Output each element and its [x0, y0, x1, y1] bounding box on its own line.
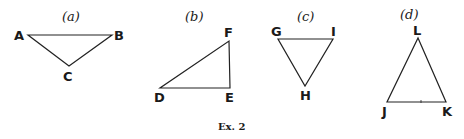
- triangle-diagram: (a) A B C (b) D E F (c) G I H (d) J K L …: [0, 0, 464, 139]
- figure-d: (d) J K L: [381, 7, 453, 119]
- triangle-ghi: [278, 39, 333, 86]
- vertex-label-c: C: [63, 69, 73, 84]
- figure-label-a: (a): [62, 9, 80, 24]
- figure-c: (c) G I H: [271, 9, 336, 103]
- triangle-abc: [28, 35, 112, 66]
- vertex-label-g: G: [271, 24, 282, 39]
- vertex-label-l: L: [413, 23, 421, 38]
- vertex-label-e: E: [225, 90, 234, 105]
- vertex-label-i: I: [331, 24, 336, 39]
- triangle-def: [160, 41, 230, 88]
- figure-a: (a) A B C: [14, 9, 124, 84]
- vertex-label-d: D: [154, 90, 165, 105]
- vertex-label-f: F: [224, 25, 233, 40]
- vertex-label-b: B: [114, 28, 124, 43]
- figure-label-b: (b): [185, 9, 203, 24]
- triangle-jkl: [387, 38, 446, 102]
- vertex-label-a: A: [14, 28, 24, 43]
- figure-b: (b) D E F: [154, 9, 234, 105]
- vertex-label-h: H: [300, 88, 311, 103]
- figure-label-c: (c): [297, 9, 314, 24]
- caption: Ex. 2: [218, 121, 246, 132]
- figure-label-d: (d): [400, 7, 418, 22]
- vertex-label-k: K: [442, 104, 453, 119]
- vertex-label-j: J: [381, 104, 387, 119]
